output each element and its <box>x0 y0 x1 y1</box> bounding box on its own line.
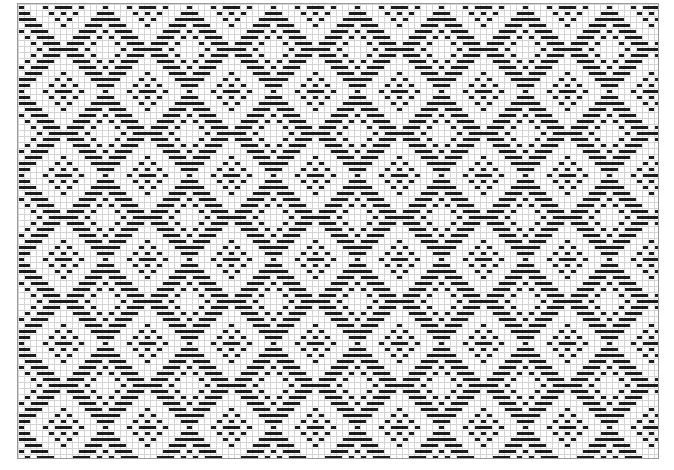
warp-float <box>409 180 414 183</box>
warp-float <box>19 180 30 183</box>
warp-float <box>235 18 240 21</box>
warp-float <box>601 12 618 15</box>
warp-float <box>481 264 486 267</box>
warp-float <box>295 138 312 141</box>
warp-float <box>601 60 606 63</box>
warp-float <box>529 396 534 399</box>
warp-float <box>349 12 366 15</box>
warp-float <box>265 168 282 171</box>
warp-float <box>367 366 384 369</box>
warp-float <box>19 432 30 435</box>
warp-float <box>181 60 186 63</box>
warp-float <box>583 258 588 261</box>
warp-float <box>649 408 654 411</box>
warp-float <box>19 264 30 267</box>
warp-float <box>361 204 366 207</box>
warp-float <box>181 336 198 339</box>
warp-float <box>49 48 78 51</box>
warp-float <box>361 240 378 243</box>
warp-float <box>529 228 534 231</box>
warp-float <box>325 168 330 171</box>
warp-float <box>247 114 264 117</box>
warp-float <box>307 426 324 429</box>
warp-float <box>175 330 204 333</box>
warp-float <box>61 264 66 267</box>
warp-float <box>151 78 156 81</box>
warp-float <box>637 96 642 99</box>
warp-float <box>559 342 576 345</box>
warp-float <box>511 42 516 45</box>
warp-float <box>73 36 90 39</box>
warp-float <box>403 102 408 105</box>
warp-float <box>283 30 300 33</box>
warp-float <box>511 414 540 417</box>
warp-float <box>229 84 234 87</box>
warp-float <box>277 372 282 375</box>
warp-float <box>391 246 396 249</box>
warp-float <box>157 120 174 123</box>
warp-float <box>475 354 480 357</box>
warp-float <box>205 396 222 399</box>
warp-float <box>445 324 462 327</box>
warp-float <box>571 438 576 441</box>
warp-float <box>409 252 414 255</box>
warp-float <box>283 282 300 285</box>
warp-float <box>211 378 228 381</box>
warp-float <box>157 336 162 339</box>
warp-float <box>439 30 444 33</box>
warp-float <box>79 366 96 369</box>
warp-float <box>205 372 222 375</box>
warp-float <box>37 312 54 315</box>
warp-float <box>331 234 348 237</box>
warp-float <box>505 384 510 387</box>
warp-float <box>181 84 198 87</box>
warp-float <box>391 18 396 21</box>
warp-float <box>433 204 438 207</box>
warp-float <box>91 18 120 21</box>
warp-float <box>139 342 156 345</box>
warp-float <box>487 270 492 273</box>
warp-float <box>463 138 480 141</box>
warp-float <box>415 282 432 285</box>
warp-float <box>73 168 78 171</box>
warp-float <box>493 336 498 339</box>
warp-float <box>163 66 180 69</box>
warp-float <box>595 390 600 393</box>
warp-float <box>91 126 96 129</box>
warp-float <box>319 306 336 309</box>
warp-float <box>223 438 228 441</box>
warp-float <box>187 234 192 237</box>
warp-float <box>535 306 540 309</box>
warp-float <box>505 300 510 303</box>
warp-float <box>283 42 288 45</box>
warp-float <box>265 204 270 207</box>
warp-float <box>193 72 210 75</box>
warp-float <box>43 378 60 381</box>
warp-float <box>199 390 204 393</box>
warp-float <box>607 342 612 345</box>
warp-float <box>61 348 66 351</box>
warp-float <box>223 174 240 177</box>
warp-float <box>241 420 246 423</box>
warp-float <box>517 420 534 423</box>
warp-float <box>283 234 300 237</box>
warp-float <box>565 444 570 447</box>
warp-float <box>361 108 378 111</box>
warp-float <box>259 186 288 189</box>
warp-float <box>97 264 114 267</box>
warp-float <box>487 42 504 45</box>
warp-float <box>307 6 324 9</box>
warp-float <box>145 348 150 351</box>
warp-float <box>493 288 510 291</box>
warp-float <box>121 48 126 51</box>
warp-float <box>235 162 240 165</box>
warp-float <box>625 132 630 135</box>
warp-float <box>427 354 456 357</box>
warp-float <box>307 354 312 357</box>
warp-float <box>619 234 636 237</box>
warp-float <box>457 228 474 231</box>
warp-float <box>433 420 450 423</box>
warp-float <box>19 150 24 153</box>
warp-float <box>31 198 48 201</box>
warp-float <box>535 282 552 285</box>
